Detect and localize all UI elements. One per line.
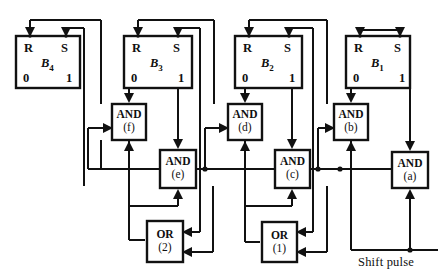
ff-B2-subscript: 2 (269, 63, 274, 73)
gate-or-1-tag: (1) (273, 242, 286, 254)
ff-B4-name: B4 (41, 56, 54, 73)
ff-B3-reset-label: R (132, 41, 141, 56)
gate-and-c-tag: (c) (286, 168, 299, 180)
gate-and-e: AND (e) (160, 155, 196, 180)
gate-and-a: AND (a) (392, 157, 428, 182)
ff-B3-set-label: S (173, 41, 180, 56)
gate-or-2: OR (2) (147, 228, 183, 253)
gate-and-b-label: AND (339, 108, 364, 120)
gate-and-e-label: AND (166, 155, 191, 167)
gate-and-b: AND (b) (334, 108, 368, 133)
ff-B1-set-label: S (394, 41, 401, 56)
ff-B3-name: B3 (150, 56, 163, 73)
gate-or-2-label: OR (156, 228, 173, 240)
ff-B4-reset-label: R (24, 41, 33, 56)
ff-B3-subscript: 3 (158, 63, 163, 73)
ff-B1-reset-label: R (354, 41, 363, 56)
ff-B4-one-label: 1 (66, 71, 72, 86)
ff-B4-set-label: S (61, 41, 68, 56)
ff-B3-one-label: 1 (178, 71, 184, 86)
ff-B2-zero-label: 0 (242, 71, 248, 86)
ff-one-output-wires (178, 88, 410, 148)
ff-B1-zero-label: 0 (353, 71, 359, 86)
gate-and-d-tag: (d) (238, 121, 251, 133)
ff-B2-reset-label: R (243, 41, 252, 56)
ff-B4-zero-label: 0 (23, 71, 29, 86)
ff-zero-output-wires (129, 88, 351, 100)
gate-and-a-label: AND (398, 157, 423, 169)
gate-or-1: OR (1) (262, 229, 297, 254)
ff-B2-set-label: S (284, 41, 291, 56)
gate-and-b-tag: (b) (344, 121, 357, 133)
ff-B1-one-label: 1 (399, 71, 405, 86)
ff-B2-one-label: 1 (289, 71, 295, 86)
top-feedback-wires (30, 20, 400, 98)
shift-pulse-label: Shift pulse (358, 255, 414, 270)
gate-and-d: AND (d) (228, 108, 262, 133)
ff-B4-subscript: 4 (49, 63, 54, 73)
gate-or-2-tag: (2) (158, 241, 171, 253)
gate-and-f-label: AND (117, 108, 142, 120)
gate-or-1-label: OR (271, 229, 288, 241)
gate-and-f: AND (f) (112, 108, 146, 133)
gate-and-d-label: AND (233, 108, 258, 120)
gate-and-c: AND (c) (275, 155, 310, 180)
shift-register-diagram: R S B4 0 1 R S B3 0 1 R S B2 0 1 R S B1 … (0, 0, 438, 280)
ff-B2-name: B2 (261, 56, 274, 73)
ff-B1-name: B1 (371, 56, 384, 73)
gate-and-a-tag: (a) (404, 170, 417, 182)
and-output-bus (88, 128, 392, 172)
shift-pulse-wire (351, 247, 438, 252)
gate-and-e-tag: (e) (172, 168, 185, 180)
ff-B1-subscript: 1 (379, 63, 384, 73)
ff-B3-zero-label: 0 (131, 71, 137, 86)
gate-and-f-tag: (f) (123, 121, 135, 133)
gate-and-c-label: AND (280, 155, 305, 167)
